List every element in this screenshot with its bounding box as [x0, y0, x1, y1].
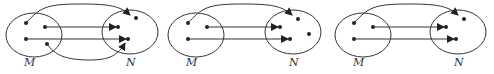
set-m-ellipse [335, 13, 391, 57]
set-m-ellipse [6, 13, 62, 57]
diagram-canvas: MNMNMN [0, 0, 494, 74]
set-n-element-point [278, 25, 282, 29]
set-m-ellipse [168, 13, 224, 57]
mapping-diagrams: MNMNMN [0, 0, 494, 74]
set-n-label: N [453, 56, 464, 69]
set-n-ellipse [430, 10, 486, 54]
set-m-label: M [185, 56, 198, 69]
set-m-label: M [23, 56, 36, 69]
diagram-3: MN [335, 4, 486, 69]
set-n-label: N [125, 56, 136, 69]
diagram-1: MN [6, 4, 158, 69]
set-n-element-point [462, 17, 466, 21]
set-n-element-point [307, 32, 311, 36]
set-n-element-point [288, 37, 292, 41]
set-m-label: M [352, 56, 365, 69]
set-n-element-point [296, 17, 300, 21]
set-n-ellipse [102, 10, 158, 54]
set-n-element-point [444, 25, 448, 29]
set-n-ellipse [265, 10, 321, 54]
set-n-element-point [116, 25, 120, 29]
set-n-element-point [134, 16, 138, 20]
diagram-2: MN [168, 4, 321, 69]
set-n-element-point [126, 37, 130, 41]
set-n-element-point [454, 37, 458, 41]
set-n-label: N [288, 56, 299, 69]
